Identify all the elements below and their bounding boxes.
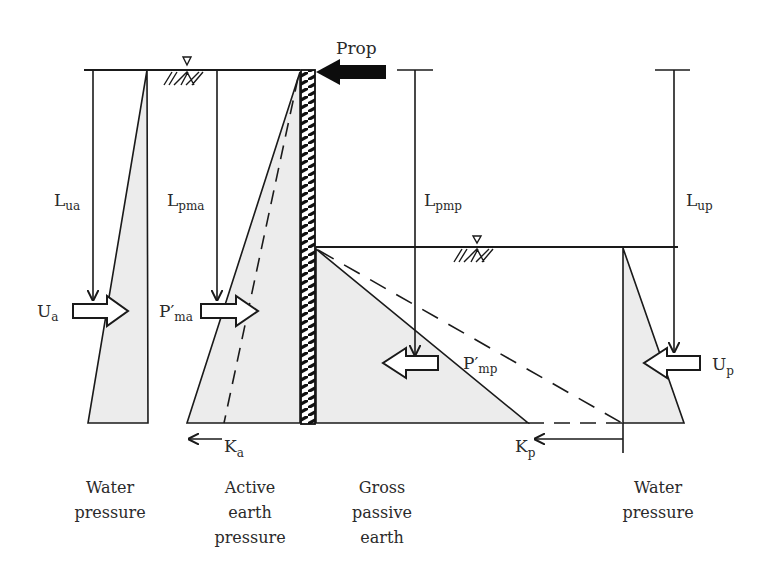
passive-earth-pressure-diagram xyxy=(316,249,528,423)
svg-text:Water: Water xyxy=(634,478,682,497)
svg-text:pressure: pressure xyxy=(622,503,693,522)
svg-text:pressure: pressure xyxy=(74,503,145,522)
label-L-pma: Lpma xyxy=(167,190,205,213)
caption-water-left: Water pressure xyxy=(74,478,145,522)
svg-text:Gross: Gross xyxy=(359,478,405,497)
svg-text:earth: earth xyxy=(360,528,403,547)
prop-arrow-icon xyxy=(316,59,386,85)
sheet-pile-wall-icon xyxy=(301,70,315,424)
label-L-up: Lup xyxy=(686,190,713,213)
label-K-p: Kp xyxy=(515,436,536,460)
water-table-icon xyxy=(454,236,493,262)
caption-gross-passive: Gross passive earth xyxy=(352,478,412,547)
caption-water-right: Water pressure xyxy=(622,478,693,522)
label-U-a: Ua xyxy=(37,301,58,324)
svg-text:Water: Water xyxy=(86,478,134,497)
svg-text:passive: passive xyxy=(352,503,412,522)
svg-text:Active: Active xyxy=(224,478,276,497)
svg-text:pressure: pressure xyxy=(214,528,285,547)
right-water-pressure-diagram xyxy=(623,248,684,423)
water-table-icon xyxy=(164,57,203,85)
retaining-wall-pressure-diagram: Prop Lua Lpma Lpmp Lup Ua P′ma P′mp Up K… xyxy=(0,0,770,581)
label-P-ma: P′ma xyxy=(159,301,193,324)
left-water-pressure-diagram xyxy=(88,70,148,423)
label-K-a: Ka xyxy=(224,436,244,460)
label-L-ua: Lua xyxy=(54,190,80,213)
label-P-mp: P′mp xyxy=(463,353,498,376)
label-L-pmp: Lpmp xyxy=(424,190,462,213)
prop-label: Prop xyxy=(336,38,377,58)
svg-text:earth: earth xyxy=(228,503,271,522)
active-earth-pressure-diagram xyxy=(187,72,300,423)
caption-active-earth: Active earth pressure xyxy=(214,478,285,547)
label-U-p: Up xyxy=(712,354,734,378)
